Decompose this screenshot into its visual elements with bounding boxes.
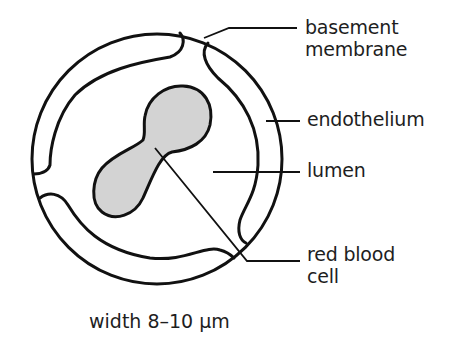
- endothelial-cell-right: [204, 43, 258, 243]
- label-basement-membrane-line1: basement: [305, 16, 407, 38]
- label-red-blood-cell-line2: cell: [307, 265, 395, 287]
- label-lumen: lumen: [307, 159, 366, 181]
- leader-line-red-blood-cell: [155, 148, 300, 261]
- label-red-blood-cell-line1: red blood: [307, 243, 395, 265]
- label-red-blood-cell: red blood cell: [307, 243, 395, 287]
- width-caption: width 8–10 µm: [89, 310, 230, 332]
- label-basement-membrane: basement membrane: [305, 16, 407, 60]
- label-endothelium: endothelium: [307, 108, 425, 130]
- label-basement-membrane-line2: membrane: [305, 38, 407, 60]
- leader-line-basement-membrane: [204, 28, 297, 38]
- red-blood-cell-shape: [94, 86, 211, 217]
